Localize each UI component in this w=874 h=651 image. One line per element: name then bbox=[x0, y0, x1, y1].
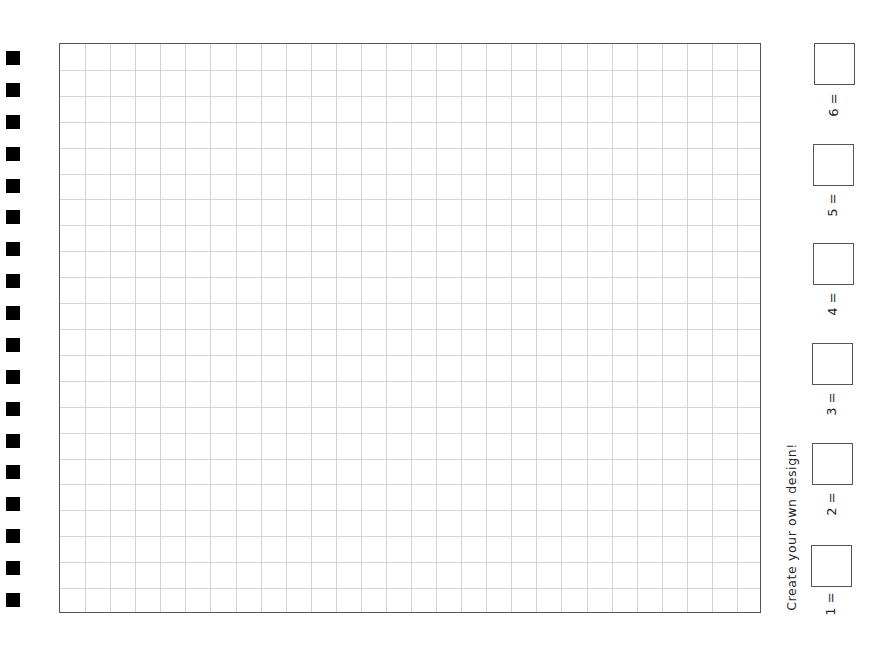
binding-hole-icon bbox=[6, 497, 20, 511]
binding-hole-icon bbox=[6, 83, 20, 97]
binding-hole-icon bbox=[6, 179, 20, 193]
binding-hole-icon bbox=[6, 51, 20, 65]
color-key-box-3[interactable] bbox=[812, 343, 853, 385]
binding-hole-icon bbox=[6, 593, 20, 607]
color-key-label-2: 2 = bbox=[825, 489, 839, 519]
color-key-box-4[interactable] bbox=[813, 243, 854, 285]
binding-hole-icon bbox=[6, 402, 20, 416]
color-key-box-5[interactable] bbox=[813, 144, 854, 186]
worksheet-tagline: Create your own design! bbox=[785, 435, 799, 619]
binding-hole-icon bbox=[6, 561, 20, 575]
color-key-label-4: 4 = bbox=[826, 289, 840, 319]
binding-hole-icon bbox=[6, 529, 20, 543]
grid-lines bbox=[60, 44, 761, 613]
color-key-label-6: 6 = bbox=[827, 90, 841, 120]
color-key-box-6[interactable] bbox=[814, 43, 855, 85]
color-key-label-3: 3 = bbox=[825, 389, 839, 419]
binding-hole-icon bbox=[6, 338, 20, 352]
binding-hole-icon bbox=[6, 306, 20, 320]
drawing-grid[interactable] bbox=[59, 43, 761, 613]
binding-hole-icon bbox=[6, 370, 20, 384]
color-key-label-1: 1 = bbox=[824, 589, 838, 619]
binding-hole-icon bbox=[6, 274, 20, 288]
color-key-box-1[interactable] bbox=[811, 545, 852, 587]
binding-hole-icon bbox=[6, 115, 20, 129]
binding-hole-icon bbox=[6, 465, 20, 479]
color-key-box-2[interactable] bbox=[812, 443, 853, 485]
color-key-label-5: 5 = bbox=[826, 190, 840, 220]
binding-hole-icon bbox=[6, 147, 20, 161]
binding-hole-icon bbox=[6, 242, 20, 256]
binding-hole-icon bbox=[6, 210, 20, 224]
binding-hole-icon bbox=[6, 434, 20, 448]
